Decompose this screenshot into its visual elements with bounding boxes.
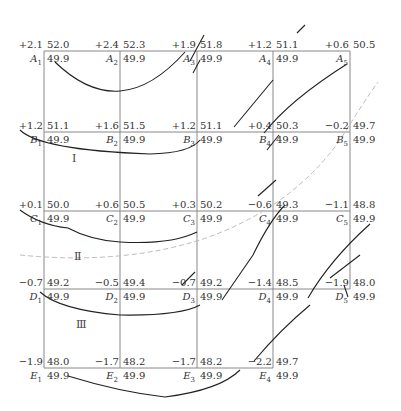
bottom-value: 49.9 xyxy=(47,370,69,381)
point-name: B3 xyxy=(183,134,195,150)
point-name: B5 xyxy=(336,134,348,150)
delta-value: +0.6 xyxy=(95,199,119,210)
bottom-value: 49.9 xyxy=(276,213,298,224)
point-name: D1 xyxy=(30,291,43,307)
bottom-value: 49.9 xyxy=(200,53,222,64)
point-name: C4 xyxy=(259,213,271,229)
top-value: 48.0 xyxy=(353,277,375,288)
top-value: 48.2 xyxy=(200,356,222,367)
delta-value: +1.2 xyxy=(248,39,272,50)
bottom-value: 49.9 xyxy=(123,213,145,224)
delta-value: −1.7 xyxy=(95,356,119,367)
bottom-value: 49.9 xyxy=(353,213,375,224)
region-label: Ⅰ xyxy=(72,152,76,165)
top-value: 48.8 xyxy=(353,199,375,210)
top-value: 51.1 xyxy=(47,120,69,131)
bottom-value: 49.9 xyxy=(276,291,298,302)
point-name: D5 xyxy=(336,291,349,307)
top-value: 52.3 xyxy=(123,39,145,50)
bottom-value: 49.9 xyxy=(123,370,145,381)
top-value: 50.5 xyxy=(123,199,145,210)
point-name: E3 xyxy=(183,370,195,386)
bottom-value: 49.9 xyxy=(123,134,145,145)
point-name: B1 xyxy=(30,134,42,150)
top-value: 48.5 xyxy=(276,277,298,288)
top-value: 49.4 xyxy=(123,277,145,288)
bottom-value: 49.9 xyxy=(276,53,298,64)
bottom-value: 49.9 xyxy=(47,134,69,145)
region-label: Ⅲ xyxy=(76,318,87,331)
point-name: A5 xyxy=(336,53,348,69)
bottom-value: 49.9 xyxy=(200,213,222,224)
contour-line xyxy=(330,255,360,278)
top-value: 52.0 xyxy=(47,39,69,50)
delta-value: +2.4 xyxy=(95,39,119,50)
delta-value: −0.6 xyxy=(248,199,272,210)
delta-value: −1.4 xyxy=(248,277,272,288)
bottom-value: 49.9 xyxy=(123,291,145,302)
delta-value: −1.7 xyxy=(172,356,196,367)
top-value: 51.1 xyxy=(276,39,298,50)
delta-value: +2.1 xyxy=(19,39,43,50)
region-label: Ⅱ xyxy=(74,250,81,263)
point-name: D3 xyxy=(183,291,196,307)
bottom-value: 49.9 xyxy=(47,213,69,224)
delta-value: −2.2 xyxy=(248,356,272,367)
delta-value: −1.1 xyxy=(325,199,349,210)
point-name: E2 xyxy=(106,370,118,386)
bottom-value: 49.9 xyxy=(200,134,222,145)
delta-value: −1.9 xyxy=(325,277,349,288)
point-name: A4 xyxy=(259,53,271,69)
bottom-value: 49.9 xyxy=(353,134,375,145)
point-name: A1 xyxy=(30,53,42,69)
delta-value: −0.7 xyxy=(172,277,196,288)
top-value: 49.7 xyxy=(276,356,298,367)
point-name: C2 xyxy=(106,213,118,229)
delta-value: +0.3 xyxy=(172,199,196,210)
bottom-value: 49.9 xyxy=(200,291,222,302)
top-value: 49.2 xyxy=(200,277,222,288)
bottom-value: 49.9 xyxy=(276,134,298,145)
top-value: 49.7 xyxy=(353,120,375,131)
bottom-value: 49.9 xyxy=(123,53,145,64)
top-value: 48.0 xyxy=(47,356,69,367)
delta-value: +1.2 xyxy=(172,120,196,131)
top-value: 51.8 xyxy=(200,39,222,50)
top-value: 49.2 xyxy=(47,277,69,288)
point-name: B4 xyxy=(259,134,271,150)
point-name: D4 xyxy=(259,291,272,307)
top-value: 48.2 xyxy=(123,356,145,367)
point-name: C1 xyxy=(30,213,42,229)
delta-value: −1.9 xyxy=(19,356,43,367)
top-value: 49.3 xyxy=(276,199,298,210)
top-value: 51.1 xyxy=(200,120,222,131)
point-name: D2 xyxy=(106,291,119,307)
point-name: B2 xyxy=(106,134,118,150)
delta-value: +0.6 xyxy=(325,39,349,50)
bottom-value: 49.9 xyxy=(47,291,69,302)
point-name: E4 xyxy=(259,370,271,386)
point-name: A3 xyxy=(183,53,195,69)
delta-value: +1.6 xyxy=(95,120,119,131)
point-name: E1 xyxy=(30,370,42,386)
contour-line xyxy=(297,25,305,33)
point-name: C5 xyxy=(336,213,348,229)
grid-lines xyxy=(44,51,350,368)
delta-value: −0.5 xyxy=(95,277,119,288)
delta-value: −0.7 xyxy=(19,277,43,288)
top-value: 51.5 xyxy=(123,120,145,131)
top-value: 50.5 xyxy=(353,39,375,50)
delta-value: +0.1 xyxy=(19,199,43,210)
bottom-value: 49.9 xyxy=(276,370,298,381)
point-name: A2 xyxy=(106,53,118,69)
top-value: 50.3 xyxy=(276,120,298,131)
contour-line xyxy=(254,305,310,361)
top-value: 50.2 xyxy=(200,199,222,210)
point-name: C3 xyxy=(183,213,195,229)
delta-value: +0.4 xyxy=(248,120,272,131)
delta-value: +1.2 xyxy=(19,120,43,131)
bottom-value: 49.9 xyxy=(353,291,375,302)
bottom-value: 49.9 xyxy=(200,370,222,381)
delta-value: +1.9 xyxy=(172,39,196,50)
delta-value: −0.2 xyxy=(325,120,349,131)
